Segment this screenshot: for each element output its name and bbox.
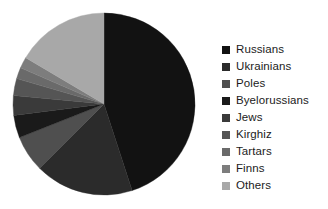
legend-swatch-icon	[222, 182, 230, 190]
legend-item-label: Jews	[236, 111, 263, 124]
legend-item-ukrainians[interactable]: Ukrainians	[222, 58, 326, 75]
legend-item-label: Byelorussians	[236, 94, 309, 107]
legend-item-label: Russians	[236, 43, 284, 56]
legend-swatch-icon	[222, 114, 230, 122]
legend-item-label: Others	[236, 179, 271, 192]
legend-swatch-icon	[222, 63, 230, 71]
legend-swatch-icon	[222, 80, 230, 88]
legend-item-russians[interactable]: Russians	[222, 41, 326, 58]
legend-swatch-icon	[222, 131, 230, 139]
legend-item-label: Kirghiz	[236, 128, 272, 141]
pie-svg	[0, 0, 210, 209]
legend-swatch-icon	[222, 97, 230, 105]
legend-item-finns[interactable]: Finns	[222, 160, 326, 177]
legend-item-jews[interactable]: Jews	[222, 109, 326, 126]
legend-item-byelorussians[interactable]: Byelorussians	[222, 92, 326, 109]
legend-swatch-icon	[222, 148, 230, 156]
legend-item-poles[interactable]: Poles	[222, 75, 326, 92]
legend-item-label: Tartars	[236, 145, 272, 158]
legend-item-others[interactable]: Others	[222, 177, 326, 194]
legend-item-tartars[interactable]: Tartars	[222, 143, 326, 160]
chart-legend: RussiansUkrainiansPolesByelorussiansJews…	[222, 41, 326, 194]
legend-item-label: Ukrainians	[236, 60, 291, 73]
legend-swatch-icon	[222, 165, 230, 173]
pie-plot-area	[0, 0, 210, 209]
legend-item-kirghiz[interactable]: Kirghiz	[222, 126, 326, 143]
legend-item-label: Finns	[236, 162, 265, 175]
pie-chart-figure: RussiansUkrainiansPolesByelorussiansJews…	[0, 0, 328, 209]
legend-item-label: Poles	[236, 77, 265, 90]
legend-swatch-icon	[222, 46, 230, 54]
pie-slices	[13, 13, 195, 195]
